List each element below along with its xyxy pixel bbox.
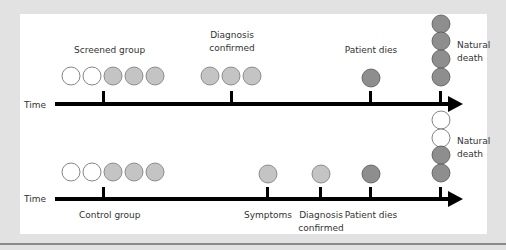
circle-light (243, 67, 261, 85)
tick-control (102, 187, 105, 198)
circle-empty (83, 67, 101, 85)
tick-natural-death (439, 91, 442, 103)
circle-light (104, 163, 122, 181)
patient-dies-label: Patient dies (345, 45, 398, 55)
circle-light (125, 163, 143, 181)
natural-death-label-line2: death (457, 149, 483, 159)
circle-light (146, 163, 164, 181)
diagnosis-label-line2: confirmed (209, 43, 254, 53)
circle-dark (432, 15, 450, 33)
circle-empty (83, 163, 101, 181)
tick-diagnosis (230, 91, 233, 103)
circle-light (125, 67, 143, 85)
time-axis-line (55, 197, 450, 201)
patient-dies-label: Patient dies (345, 210, 398, 220)
tick-natural-death (439, 187, 442, 198)
circle-dark (432, 50, 450, 68)
time-axis-label: Time (23, 100, 46, 110)
circle-dark (362, 165, 380, 183)
circle-empty (62, 163, 80, 181)
circle-dark (432, 68, 450, 86)
tick-patient-dies (369, 91, 372, 103)
tick-patient-dies (369, 187, 372, 198)
circle-dark (432, 146, 450, 164)
circle-empty (432, 111, 450, 129)
circle-light (222, 67, 240, 85)
control-timeline: Time Control group Symptoms Diagnosis co… (23, 111, 490, 233)
circle-light (146, 67, 164, 85)
tick-screening (102, 91, 105, 103)
circle-light (259, 165, 277, 183)
circle-light (104, 67, 122, 85)
control-group-label: Control group (79, 210, 141, 220)
diagnosis-label-line1: Diagnosis (210, 30, 254, 40)
circle-empty (62, 67, 80, 85)
circle-light (201, 67, 219, 85)
circle-dark (432, 164, 450, 182)
natural-death-label-line1: Natural (457, 136, 490, 146)
lead-time-diagram: Time Screened group Diagnosis confirmed … (0, 0, 506, 250)
arrow-head-icon (448, 191, 463, 207)
screened-timeline: Time Screened group Diagnosis confirmed … (23, 15, 490, 112)
time-axis-label: Time (23, 194, 46, 204)
screened-group-label: Screened group (74, 45, 145, 55)
arrow-head-icon (448, 96, 463, 112)
time-axis-line (55, 102, 450, 106)
circle-empty (432, 129, 450, 147)
diagnosis-label-line1: Diagnosis (299, 210, 343, 220)
natural-death-label-line2: death (457, 53, 483, 63)
circle-light (312, 165, 330, 183)
circle-dark (362, 69, 380, 87)
symptoms-label: Symptoms (244, 210, 292, 220)
circle-dark (432, 32, 450, 50)
tick-diagnosis (319, 187, 322, 198)
natural-death-label-line1: Natural (457, 40, 490, 50)
diagnosis-label-line2: confirmed (298, 223, 343, 233)
tick-symptoms (266, 187, 269, 198)
